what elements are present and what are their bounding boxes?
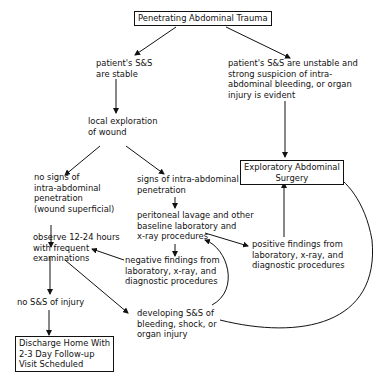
node-no-injury: no S&S of injury	[17, 297, 84, 308]
node-developing: developing S&S of bleeding, shock, or or…	[137, 308, 217, 340]
node-lavage: peritoneal lavage and other baseline lab…	[137, 210, 254, 242]
node-negative: negative findings from laboratory, x-ray…	[125, 255, 220, 287]
node-signs: signs of intra-abdominal penetration	[137, 174, 239, 195]
node-observe: observe 12-24 hours with frequent examin…	[33, 232, 120, 264]
node-exploratory-surgery: Exploratory Abdominal Surgery	[240, 160, 344, 185]
node-stable: patient's S&S are stable	[96, 58, 152, 79]
node-unstable: patient's S&S are unstable and strong su…	[228, 58, 358, 100]
node-local-exploration: local exploration of wound	[88, 116, 158, 137]
node-discharge: Discharge Home With 2-3 Day Follow-up Vi…	[15, 336, 114, 372]
node-positive: positive findings from laboratory, x-ray…	[252, 239, 345, 271]
node-no-signs: no signs of intra-abdominal penetration …	[34, 172, 114, 214]
node-penetrating-abdominal-trauma: Penetrating Abdominal Trauma	[134, 11, 272, 26]
